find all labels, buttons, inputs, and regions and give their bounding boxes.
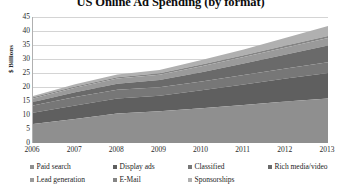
y-tick-label: 10: [2, 111, 30, 119]
chart-figure: US Online Ad Spending (by format) $ Bill…: [0, 0, 341, 191]
legend-swatch-icon: [188, 165, 192, 169]
y-tick-label: 35: [2, 41, 30, 49]
legend-item[interactable]: Rich media/video: [268, 163, 328, 171]
y-tick-label: 45: [2, 13, 30, 21]
legend-swatch-icon: [188, 178, 192, 182]
legend-swatch-icon: [30, 165, 34, 169]
x-tick-label: 2006: [12, 146, 52, 154]
legend-item[interactable]: E-Mail: [113, 176, 141, 184]
legend-item[interactable]: Display ads: [113, 163, 155, 171]
x-tick-label: 2011: [223, 146, 263, 154]
legend-label: E-Mail: [120, 176, 141, 184]
legend-label: Lead generation: [37, 176, 86, 184]
x-tick-label: 2010: [181, 146, 221, 154]
y-tick-label: 15: [2, 97, 30, 105]
x-tick-label: 2008: [96, 146, 136, 154]
y-tick-label: 25: [2, 69, 30, 77]
legend-swatch-icon: [113, 165, 117, 169]
legend-label: Display ads: [120, 163, 155, 171]
legend-item[interactable]: Sponsorships: [188, 176, 235, 184]
legend-label: Sponsorships: [195, 176, 235, 184]
legend-swatch-icon: [268, 165, 272, 169]
legend-label: Paid search: [37, 163, 71, 171]
y-tick-label: 5: [2, 125, 30, 133]
legend-item[interactable]: Lead generation: [30, 176, 85, 184]
y-tick-label: 40: [2, 27, 30, 35]
stacked-area-svg: [33, 17, 328, 143]
plot-area: [32, 17, 327, 143]
legend-item[interactable]: Paid search: [30, 163, 71, 171]
legend-swatch-icon: [113, 178, 117, 182]
y-tick-label: 20: [2, 83, 30, 91]
x-tick-label: 2009: [138, 146, 178, 154]
legend-swatch-icon: [30, 178, 34, 182]
chart-legend: Paid searchDisplay adsClassifiedRich med…: [0, 160, 341, 191]
y-tick-label: 30: [2, 55, 30, 63]
x-axis-tick-labels: 20062007200820092010201120122013: [32, 146, 327, 158]
legend-label: Rich media/video: [275, 163, 328, 171]
x-tick-label: 2012: [265, 146, 305, 154]
chart-title: US Online Ad Spending (by format): [0, 0, 341, 10]
legend-item[interactable]: Classified: [188, 163, 225, 171]
x-tick-label: 2013: [307, 146, 341, 154]
legend-label: Classified: [195, 163, 225, 171]
x-tick-label: 2007: [54, 146, 94, 154]
